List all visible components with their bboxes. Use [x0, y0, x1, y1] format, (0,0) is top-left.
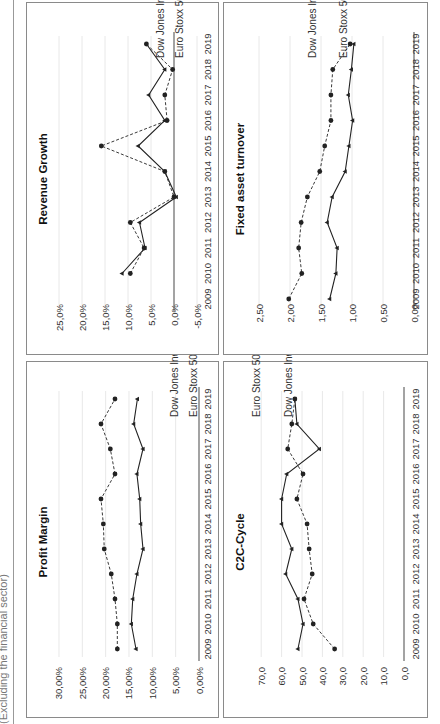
data-point-marker — [131, 422, 135, 427]
data-point-marker — [289, 422, 294, 427]
y-tick-label: 10,0% — [123, 303, 134, 330]
data-point-marker — [113, 472, 118, 477]
data-point-marker — [285, 447, 290, 452]
legend-label: Dow Jones Ind. — [283, 348, 294, 417]
legend-label: Dow Jones Ind. — [169, 348, 180, 417]
x-tick-label: 2019 — [410, 388, 421, 409]
x-tick-label: 2018 — [202, 59, 213, 80]
x-tick-label: 2017 — [410, 438, 421, 459]
data-point-marker — [307, 547, 312, 552]
x-tick-label: 2014 — [202, 513, 213, 534]
y-tick-label: -5,0% — [192, 303, 203, 328]
x-tick-label: 2014 — [202, 161, 213, 182]
data-point-marker — [101, 522, 106, 527]
x-tick-label: 2017 — [410, 84, 421, 105]
data-point-marker — [305, 195, 310, 200]
y-tick-label: 20,0% — [77, 303, 88, 330]
x-tick-label: 2016 — [202, 463, 213, 484]
figure-canvas: (Excluding the financial sector) Profit … — [0, 0, 440, 724]
x-tick-label: 2015 — [202, 488, 213, 509]
euro-stoxx-line — [327, 44, 354, 299]
data-point-marker — [99, 422, 104, 427]
data-point-marker — [329, 93, 334, 98]
y-tick-label: 15,0% — [100, 303, 111, 330]
x-tick-label: 2014 — [410, 161, 421, 182]
legend-label: Euro Stoxx 50 — [188, 354, 199, 417]
x-tick-label: 2015 — [410, 488, 421, 509]
data-point-marker — [327, 297, 331, 302]
data-point-marker — [311, 622, 316, 627]
c2c-plot: C2C-Cycle0,010,020,030,040,050,060,070,0… — [224, 360, 429, 717]
x-tick-label: 2018 — [410, 59, 421, 80]
caption-divider — [13, 0, 14, 724]
legend-label: Euro Stoxx 50 — [251, 354, 262, 417]
x-tick-label: 2011 — [202, 238, 213, 258]
y-tick-label: 10,0 — [378, 667, 389, 686]
legend-label: Dow Jones Ind. — [307, 0, 318, 58]
data-point-marker — [302, 597, 307, 602]
x-tick-label: 2012 — [410, 212, 421, 233]
x-tick-label: 2019 — [202, 33, 213, 54]
x-tick-label: 2010 — [410, 613, 421, 634]
y-tick-label: 60,0 — [276, 667, 287, 686]
y-tick-label: 25,00% — [77, 666, 88, 699]
y-tick-label: 50,0 — [297, 667, 308, 686]
data-point-marker — [119, 271, 123, 276]
data-point-marker — [113, 597, 118, 602]
legend-label: Euro Stoxx 50 — [174, 0, 185, 58]
y-tick-label: 1,50 — [316, 304, 327, 323]
x-tick-label: 2016 — [410, 463, 421, 484]
figure-caption: (Excluding the financial sector) — [0, 574, 9, 724]
y-tick-label: 0,00% — [194, 666, 205, 693]
data-point-marker — [283, 572, 287, 577]
data-point-marker — [332, 647, 337, 652]
y-tick-label: 10,00% — [147, 666, 158, 699]
chart-title: Fixed asset turnover — [234, 122, 246, 235]
data-point-marker — [109, 572, 114, 577]
x-tick-label: 2019 — [410, 33, 421, 54]
y-tick-label: 25,0% — [54, 303, 65, 330]
x-tick-label: 2016 — [202, 110, 213, 131]
x-tick-label: 2010 — [202, 613, 213, 634]
data-point-marker — [305, 522, 310, 527]
data-point-marker — [108, 447, 113, 452]
data-point-marker — [170, 67, 175, 72]
data-point-marker — [330, 67, 335, 72]
y-tick-label: 2,50 — [254, 304, 265, 323]
data-point-marker — [146, 93, 150, 98]
data-point-marker — [136, 144, 140, 149]
x-tick-label: 2011 — [410, 589, 421, 609]
data-point-marker — [322, 144, 327, 149]
y-tick-label: 0,0 — [399, 667, 410, 680]
x-tick-label: 2010 — [202, 263, 213, 284]
revenue-plot: Revenue Growth-5,0%0,0%5,0%10,0%15,0%20,… — [27, 1, 220, 354]
x-tick-label: 2017 — [202, 438, 213, 459]
x-tick-label: 2015 — [410, 135, 421, 156]
data-point-marker — [286, 297, 291, 302]
x-tick-label: 2013 — [202, 538, 213, 559]
data-point-marker — [295, 647, 299, 652]
x-tick-label: 2012 — [202, 563, 213, 584]
data-point-marker — [162, 93, 167, 98]
y-tick-label: 1,00 — [347, 304, 358, 323]
dow-jones-line — [288, 399, 335, 649]
y-tick-label: 20,0 — [358, 667, 369, 686]
euro-stoxx-line — [122, 44, 176, 274]
profit-plot: Profit Margin0,00%5,00%10,00%15,00%20,00… — [27, 360, 220, 717]
chart-title: Revenue Growth — [37, 133, 49, 224]
x-tick-label: 2009 — [202, 288, 213, 309]
data-point-marker — [317, 169, 322, 174]
x-tick-label: 2014 — [410, 513, 421, 534]
x-tick-label: 2019 — [202, 388, 213, 409]
x-tick-label: 2013 — [202, 186, 213, 207]
dow-jones-line — [101, 44, 174, 274]
data-point-marker — [346, 93, 350, 98]
data-point-marker — [310, 572, 315, 577]
x-tick-label: 2012 — [202, 212, 213, 233]
x-tick-label: 2013 — [410, 538, 421, 559]
fat-plot: Fixed asset turnover0,000,501,001,502,00… — [224, 1, 429, 354]
y-tick-label: 20,00% — [100, 666, 111, 699]
y-tick-label: 0,50 — [378, 304, 389, 323]
data-point-marker — [299, 220, 304, 225]
x-tick-label: 2011 — [202, 589, 213, 609]
